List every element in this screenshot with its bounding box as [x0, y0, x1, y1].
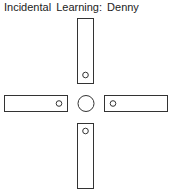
maze-arms: [5, 19, 168, 189]
right-arm: [105, 96, 168, 112]
bottom-arm-hole: [83, 128, 89, 134]
right-arm-hole: [110, 101, 116, 107]
left-arm: [5, 96, 68, 112]
left-arm-hole: [56, 101, 62, 107]
top-arm: [78, 19, 94, 84]
bottom-arm: [78, 124, 94, 189]
left-arm-rect: [5, 96, 68, 112]
bottom-arm-rect: [78, 124, 94, 189]
right-arm-rect: [105, 96, 168, 112]
center-platform: [78, 96, 94, 112]
top-arm-rect: [78, 19, 94, 84]
radial-arm-maze-diagram: [0, 0, 169, 192]
top-arm-hole: [83, 72, 89, 78]
